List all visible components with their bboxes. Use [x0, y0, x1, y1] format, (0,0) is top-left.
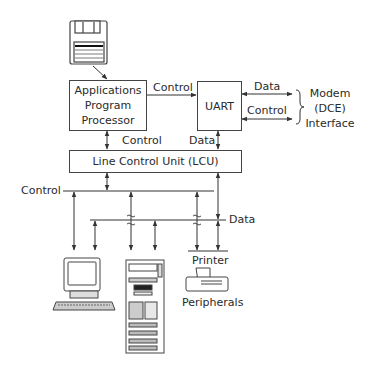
processor-label-line-3: Processor: [82, 113, 135, 128]
printer-icon: [186, 268, 228, 291]
app-lcu-control-label: Control: [122, 134, 162, 147]
modem-dce-interface-label: Modem (DCE) Interface: [305, 86, 355, 131]
app-uart-control-label: Control: [153, 81, 193, 94]
uart-lcu-data-label: Data: [189, 134, 215, 147]
modem-line-3: Interface: [305, 116, 354, 131]
control-bus-label: Control: [21, 184, 61, 197]
data-bus-label: Data: [229, 213, 255, 226]
modem-line-1: Modem: [310, 86, 351, 101]
floppy-disk-icon: [70, 21, 107, 64]
printer-label: Printer: [192, 254, 229, 267]
floppy-to-processor-arrow: [93, 66, 107, 79]
uart-modem-control-label: Control: [247, 104, 287, 117]
modem-brace: [296, 90, 304, 124]
uart-label: UART: [205, 99, 234, 114]
processor-label-line-1: Applications: [74, 83, 141, 98]
uart-box: UART: [197, 81, 242, 131]
lcu-label: Line Control Unit (LCU): [92, 154, 218, 169]
uart-modem-data-label: Data: [254, 80, 280, 93]
applications-program-processor-box: Applications Program Processor: [69, 80, 147, 131]
line-control-unit-box: Line Control Unit (LCU): [69, 150, 242, 173]
modem-line-2: (DCE): [314, 101, 346, 116]
processor-label-line-2: Program: [85, 98, 131, 113]
server-tower-icon: [126, 260, 164, 353]
computer-terminal-icon: [53, 258, 115, 310]
peripherals-label: Peripherals: [182, 296, 243, 309]
